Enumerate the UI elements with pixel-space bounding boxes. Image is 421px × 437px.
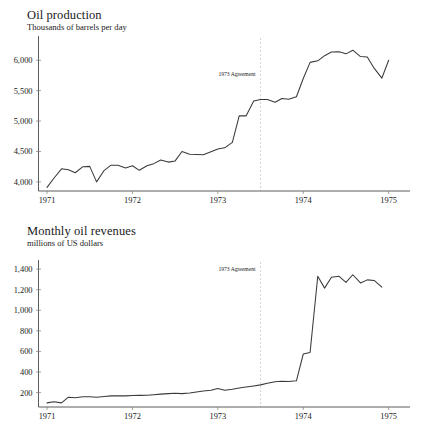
oil-production-ytick-label: 5,000 [14,117,33,126]
oil-revenues-ytick-label: 1,000 [14,306,33,315]
oil-revenues-xtick-label: 1972 [124,412,141,421]
oil-production-annotation-label: 1973 Agreement [218,71,256,77]
oil-production-xtick-label: 1975 [380,196,397,205]
chart-oil-revenues: Monthly oil revenues millions of US doll… [0,218,421,437]
oil-production-ytick-label: 4,500 [14,147,33,156]
oil-revenues-xtick-label: 1971 [39,412,56,421]
oil-revenues-xtick-label: 1975 [380,412,397,421]
oil-production-svg: 1973 Agreement4,0004,5005,0005,5006,0001… [0,0,421,218]
oil-revenues-ytick-label: 800 [20,327,33,336]
oil-production-xtick-label: 1971 [39,196,56,205]
oil-production-ytick-label: 6,000 [14,56,33,65]
oil-revenues-ytick-label: 1,400 [14,265,33,274]
chart-oil-production: Oil production Thousands of barrels per … [0,0,421,218]
oil-revenues-xtick-label: 1974 [295,412,313,421]
oil-revenues-series-line [47,275,382,403]
oil-revenues-annotation-label: 1973 Agreement [218,266,256,272]
oil-production-plot-area: 1973 Agreement4,0004,5005,0005,5006,0001… [0,0,421,218]
oil-revenues-ytick-label: 200 [20,389,33,398]
oil-production-ytick-label: 5,500 [14,87,33,96]
oil-production-xtick-label: 1973 [209,196,226,205]
oil-revenues-plot-area: 1973 Agreement2004006008001,0001,2001,40… [0,218,421,437]
oil-revenues-svg: 1973 Agreement2004006008001,0001,2001,40… [0,218,421,437]
oil-revenues-xtick-label: 1973 [209,412,226,421]
oil-revenues-ytick-label: 400 [20,368,33,377]
oil-revenues-ytick-label: 1,200 [14,286,33,295]
oil-revenues-ytick-label: 600 [20,347,33,356]
oil-production-xtick-label: 1974 [295,196,313,205]
oil-production-ytick-label: 4,000 [14,178,33,187]
oil-production-xtick-label: 1972 [124,196,141,205]
